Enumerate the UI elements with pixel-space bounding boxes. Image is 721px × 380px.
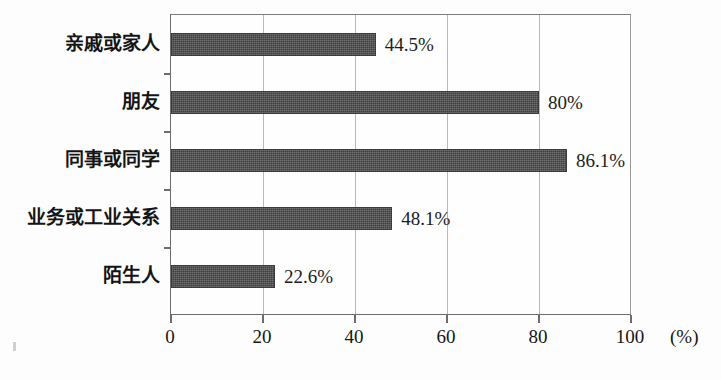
bar[interactable] xyxy=(171,33,376,56)
x-axis-unit-label: (%) xyxy=(670,326,698,348)
y-axis-tick xyxy=(164,247,171,249)
bar-row: 48.1% xyxy=(171,189,630,247)
x-axis-tick-80 xyxy=(538,315,540,323)
y-axis-label-3: 业务或工业关系 xyxy=(0,188,160,246)
y-axis-label-1: 朋友 xyxy=(0,72,160,130)
y-axis-tick xyxy=(164,131,171,133)
bar-row: 44.5% xyxy=(171,15,630,73)
y-axis-tick xyxy=(164,73,171,75)
y-axis-category-labels: 亲戚或家人朋友同事或同学业务或工业关系陌生人 xyxy=(0,14,163,315)
bar-value-label: 44.5% xyxy=(376,33,434,56)
bar[interactable] xyxy=(171,149,567,172)
x-axis-tick-label-80: 80 xyxy=(529,326,548,348)
x-axis-tick-label-20: 20 xyxy=(253,326,272,348)
x-axis-tick-0 xyxy=(170,315,172,323)
chart-page: 亲戚或家人朋友同事或同学业务或工业关系陌生人 44.5%80%86.1%48.1… xyxy=(0,0,721,380)
scan-artifact-mark xyxy=(13,342,16,351)
bar[interactable] xyxy=(171,207,392,230)
x-axis-tick-label-60: 60 xyxy=(437,326,456,348)
bar-value-label: 86.1% xyxy=(567,149,625,172)
plot-area: 44.5%80%86.1%48.1%22.6% xyxy=(170,14,631,315)
x-axis-tick-100 xyxy=(630,315,632,323)
x-axis-tick-label-40: 40 xyxy=(345,326,364,348)
x-axis-tick-label-0: 0 xyxy=(165,326,175,348)
bar[interactable] xyxy=(171,91,539,114)
y-axis-label-0: 亲戚或家人 xyxy=(0,14,160,72)
y-axis-label-4: 陌生人 xyxy=(0,246,160,304)
bar-row: 22.6% xyxy=(171,247,630,305)
bar-row: 80% xyxy=(171,73,630,131)
bar-value-label: 48.1% xyxy=(392,207,450,230)
y-axis-label-2: 同事或同学 xyxy=(0,130,160,188)
x-axis-tick-40 xyxy=(354,315,356,323)
x-axis-tick-60 xyxy=(446,315,448,323)
bar-row: 86.1% xyxy=(171,131,630,189)
bar[interactable] xyxy=(171,265,275,288)
bar-value-label: 80% xyxy=(539,91,583,114)
bar-value-label: 22.6% xyxy=(275,265,333,288)
x-axis-tick-label-100: 100 xyxy=(616,326,645,348)
y-axis-tick xyxy=(164,189,171,191)
x-axis-tick-20 xyxy=(262,315,264,323)
